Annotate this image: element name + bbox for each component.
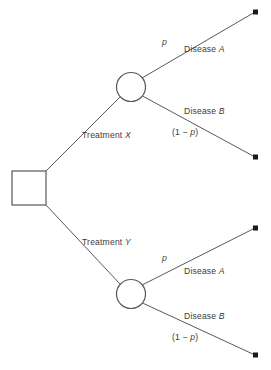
treatment-x-variable: X [125,130,131,140]
treatment-y-text: Treatment [82,237,125,247]
disease-a-upper-text: Disease [184,44,219,54]
p-lower-b-prefix: (1 − [172,332,190,342]
decision-tree-diagram: p Disease A Disease B (1 − p) Treatment … [0,0,271,370]
disease-b-lower-text: Disease [184,311,219,321]
treatment-x-text: Treatment [82,130,125,140]
branch-label-treatment-x: Treatment X [82,131,131,140]
branch-label-treatment-y: Treatment Y [82,238,131,247]
branch-label-disease-b-lower: Disease B [184,312,225,321]
branch-label-disease-a-lower: Disease A [184,267,225,276]
p-upper-b-prefix: (1 − [172,127,190,137]
probability-label-p-lower-a: p [162,254,167,263]
terminal-node-1[interactable] [253,10,258,15]
chance-node-upper[interactable] [117,73,146,102]
terminal-node-4[interactable] [253,353,258,358]
probability-label-p-lower-b: (1 − p) [172,333,198,342]
disease-a-upper-variable: A [219,44,225,54]
disease-a-lower-variable: A [219,266,225,276]
decision-node[interactable] [12,171,46,205]
tree-graphics [0,0,271,370]
p-upper-b-suffix: ) [195,127,198,137]
terminal-node-2[interactable] [253,155,258,160]
branch-label-disease-b-upper: Disease B [184,107,225,116]
probability-label-p-upper-b: (1 − p) [172,128,198,137]
disease-b-upper-variable: B [219,106,225,116]
disease-b-upper-text: Disease [184,106,219,116]
treatment-y-variable: Y [125,237,131,247]
disease-b-lower-variable: B [219,311,225,321]
probability-label-p-upper-a: p [162,38,167,47]
p-lower-b-suffix: ) [195,332,198,342]
branch-label-disease-a-upper: Disease A [184,45,225,54]
disease-a-lower-text: Disease [184,266,219,276]
terminal-node-3[interactable] [253,226,258,231]
chance-node-lower[interactable] [117,280,146,309]
